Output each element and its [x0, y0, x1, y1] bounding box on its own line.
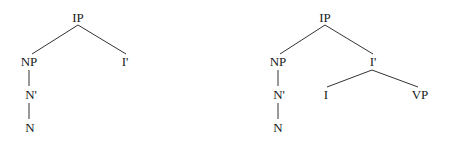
right-tree: IP NP I' N' N I VP — [270, 10, 429, 135]
edge-ip-ibar — [78, 25, 126, 54]
node-ibar: I' — [122, 54, 129, 69]
node-n: N — [273, 120, 283, 135]
node-np: NP — [21, 54, 38, 69]
edge-ibar-i — [327, 70, 372, 87]
edge-ip-np — [32, 25, 78, 54]
node-vp: VP — [412, 87, 429, 102]
node-np: NP — [270, 54, 287, 69]
edge-ip-np — [280, 25, 325, 54]
node-ip: IP — [319, 10, 331, 25]
syntax-trees-diagram: IP NP I' N' N IP NP I' N' N I VP — [0, 0, 451, 143]
node-ip: IP — [72, 10, 84, 25]
node-n: N — [25, 120, 35, 135]
edge-ip-ibar — [325, 25, 373, 54]
edge-ibar-vp — [372, 70, 418, 87]
node-i: I — [324, 87, 328, 102]
node-nbar: N' — [273, 87, 285, 102]
left-tree: IP NP I' N' N — [21, 10, 129, 135]
node-nbar: N' — [25, 87, 37, 102]
node-ibar: I' — [370, 54, 377, 69]
